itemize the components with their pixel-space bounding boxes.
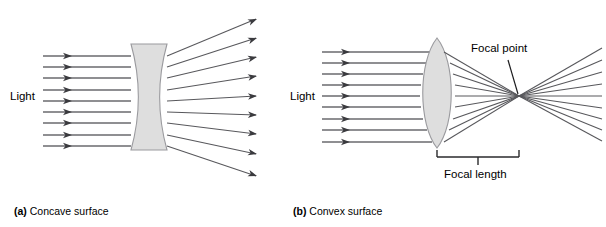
diverging-ray [519, 72, 602, 96]
outgoing-ray [167, 19, 256, 56]
panel-a-caption-text: Concave surface [30, 205, 109, 217]
panel-a-light-label: Light [10, 90, 35, 103]
panel-a-outgoing-rays [167, 19, 256, 176]
outgoing-ray [167, 38, 256, 67]
optics-figure: Light Light Focal point Focal length (a)… [0, 0, 606, 227]
diverging-ray [519, 60, 602, 96]
focal-length-label: Focal length [444, 168, 507, 181]
converging-ray [449, 96, 519, 130]
diverging-ray [519, 84, 602, 96]
panel-b-light-label: Light [290, 90, 315, 103]
diverging-ray [519, 96, 602, 119]
panel-b-converging-rays [444, 52, 519, 142]
diverging-ray [519, 96, 602, 108]
panel-a-caption-prefix: (a) [14, 205, 27, 217]
focal-point-leader-line [508, 60, 518, 94]
panel-b-incoming-rays [322, 52, 432, 142]
panel-b-caption-prefix: (b) [293, 205, 306, 217]
diverging-ray [519, 96, 602, 130]
outgoing-ray [167, 112, 256, 115]
panel-b-caption-text: Convex surface [309, 205, 382, 217]
lens-diagram-canvas [0, 0, 606, 227]
outgoing-ray [167, 135, 256, 154]
diverging-ray [519, 48, 602, 96]
panel-b-caption: (b) Convex surface [293, 205, 382, 217]
focal-length-bracket [437, 150, 519, 165]
outgoing-ray [167, 123, 256, 134]
panel-b-diverging-rays [519, 48, 602, 141]
convex-lens [423, 38, 452, 148]
outgoing-ray [167, 57, 256, 78]
outgoing-ray [167, 146, 256, 176]
panel-a-incoming-rays [43, 56, 131, 146]
converging-ray [450, 63, 519, 96]
outgoing-ray [167, 96, 256, 101]
converging-ray [453, 74, 519, 96]
concave-lens [131, 44, 167, 150]
diverging-ray [519, 96, 602, 141]
focal-point-label: Focal point [471, 42, 527, 55]
outgoing-ray [167, 76, 256, 90]
panel-a-caption: (a) Concave surface [14, 205, 109, 217]
converging-ray [453, 96, 519, 119]
